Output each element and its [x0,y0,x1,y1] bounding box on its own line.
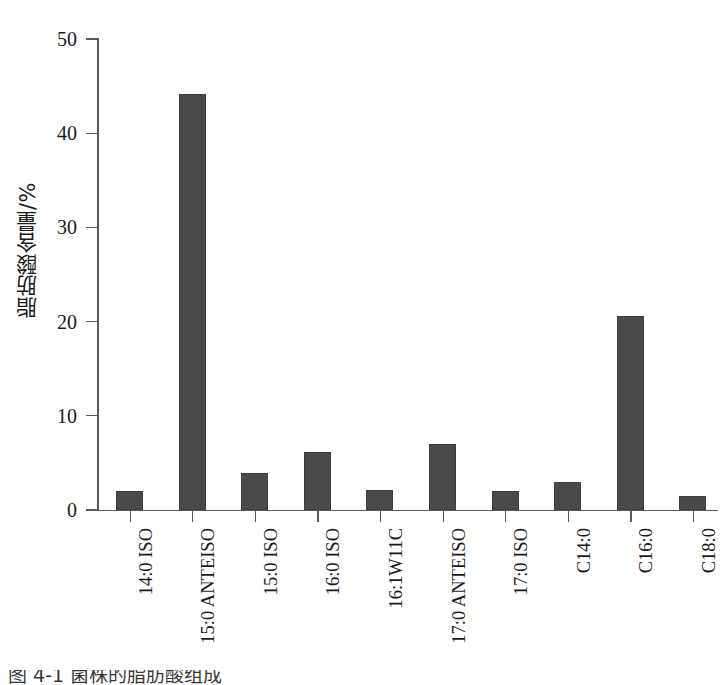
x-tick [505,510,506,522]
x-tick [443,510,444,522]
figure-caption-clipped: 图 4-1 菌株的脂肪酸组成 [0,670,723,685]
y-tick-label-30: 30 [57,217,86,237]
plot-area [97,39,717,510]
x-tick [568,510,569,522]
bar [554,482,581,510]
x-tick [255,510,256,522]
y-tick-label-20: 20 [57,311,86,331]
bar [492,491,519,510]
x-axis-label: 15:0 ISO [262,528,281,595]
x-axis-label: 15:0 ANTEISO [199,528,218,644]
x-axis-label: 14:0 ISO [137,528,156,595]
y-tick-label-0: 0 [67,500,86,520]
x-tick [317,510,318,522]
x-axis-label: 16:1W11C [387,528,406,609]
bar [617,316,644,510]
bar [179,94,206,510]
y-tick-30: 30 [86,227,97,228]
x-axis-label: 17:0 ISO [512,528,531,595]
y-tick-20: 20 [86,321,97,322]
bar [366,490,393,510]
y-tick-label-10: 10 [57,405,86,425]
figure-caption-text: 图 4-1 菌株的脂肪酸组成 [8,670,222,685]
bar [116,491,143,510]
bar [429,444,456,510]
x-axis-label: 17:0 ANTEISO [450,528,469,644]
y-tick-label-40: 40 [57,123,86,143]
y-tick-0: 0 [86,509,97,510]
x-tick [693,510,694,522]
x-axis-label: 16:0 ISO [324,528,343,595]
y-tick-label-50: 50 [57,29,86,49]
y-axis-title: 脂肪酸含量/% [18,182,44,318]
y-tick-10: 10 [86,415,97,416]
x-tick [380,510,381,522]
y-tick-50: 50 [86,38,97,39]
x-tick [630,510,631,522]
bar [679,496,706,510]
x-axis-label: C18:0 [700,528,719,573]
x-tick [192,510,193,522]
fatty-acid-bar-chart-figure: 脂肪酸含量/% 01020304050 14:0 ISO15:0 ANTEISO… [0,0,723,685]
x-tick [130,510,131,522]
y-tick-40: 40 [86,133,97,134]
x-axis-label: C16:0 [637,528,656,573]
bar [241,473,268,510]
bar [304,452,331,510]
x-axis-label: C14:0 [575,528,594,573]
